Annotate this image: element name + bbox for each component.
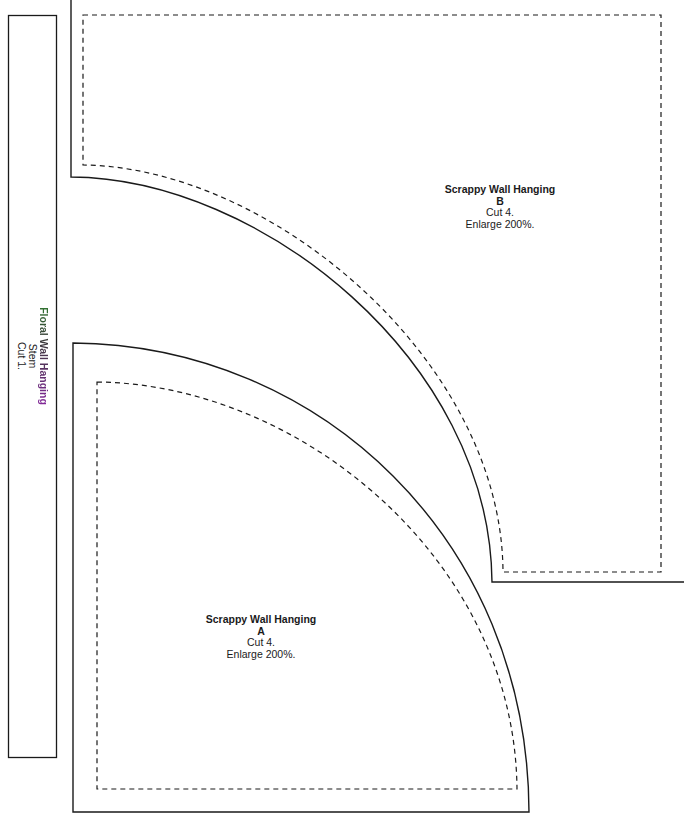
stem-instruction: Cut 1. xyxy=(16,281,27,431)
piece-b-enlarge: Enlarge 200%. xyxy=(430,219,570,231)
stem-subtitle: Stem xyxy=(27,281,38,431)
piece-a-enlarge: Enlarge 200%. xyxy=(191,649,331,661)
piece-a-cut: Cut 4. xyxy=(191,637,331,649)
piece-b-label: Scrappy Wall Hanging B Cut 4. Enlarge 20… xyxy=(430,184,570,230)
pattern-sheet xyxy=(0,0,684,827)
stem-label: Floral Wall Hanging Stem Cut 1. xyxy=(16,281,49,431)
piece-b-pattern xyxy=(71,0,684,582)
piece-a-label: Scrappy Wall Hanging A Cut 4. Enlarge 20… xyxy=(191,614,331,660)
piece-b-cut: Cut 4. xyxy=(430,207,570,219)
piece-a-title: Scrappy Wall Hanging xyxy=(191,614,331,626)
stem-title: Floral Wall Hanging xyxy=(38,281,49,431)
piece-b-title: Scrappy Wall Hanging xyxy=(430,184,570,196)
